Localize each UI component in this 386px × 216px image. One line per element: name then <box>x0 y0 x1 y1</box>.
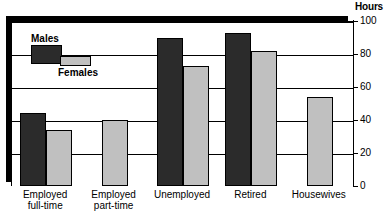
x-axis-label-3: Unemployed <box>148 189 216 200</box>
bar-males-4 <box>225 33 251 186</box>
bar-females-1 <box>46 130 72 186</box>
y-tick-80 <box>353 54 358 55</box>
y-tick-label-60: 60 <box>360 82 371 92</box>
y-tick-100 <box>353 21 358 22</box>
y-tick-60 <box>353 87 358 88</box>
y-tick-label-40: 40 <box>360 115 371 125</box>
y-axis-title: Hours <box>355 1 383 12</box>
y-tick-20 <box>353 153 358 154</box>
bar-females-5 <box>307 97 333 186</box>
bar-males-3 <box>157 38 183 187</box>
y-tick-40 <box>353 120 358 121</box>
bar-males-1 <box>20 113 46 186</box>
bar-females-2 <box>102 120 128 186</box>
x-axis-label-1: Employed full-time <box>11 189 79 211</box>
x-axis-label-2: Employed part-time <box>79 189 147 211</box>
x-axis-label-4: Retired <box>216 189 284 200</box>
y-tick-label-100: 100 <box>360 16 377 26</box>
bar-chart: Hours 020406080100 Employed full-timeEmp… <box>0 0 386 216</box>
bar-females-3 <box>183 66 209 186</box>
bar-females-4 <box>251 51 277 186</box>
y-tick-0 <box>353 186 358 187</box>
y-axis-line <box>353 20 354 187</box>
y-tick-label-20: 20 <box>360 148 371 158</box>
y-tick-label-0: 0 <box>360 181 366 191</box>
y-tick-label-80: 80 <box>360 49 371 59</box>
gridline-100 <box>12 22 353 23</box>
plot-area <box>11 21 353 186</box>
x-axis-label-5: Housewives <box>285 189 353 200</box>
